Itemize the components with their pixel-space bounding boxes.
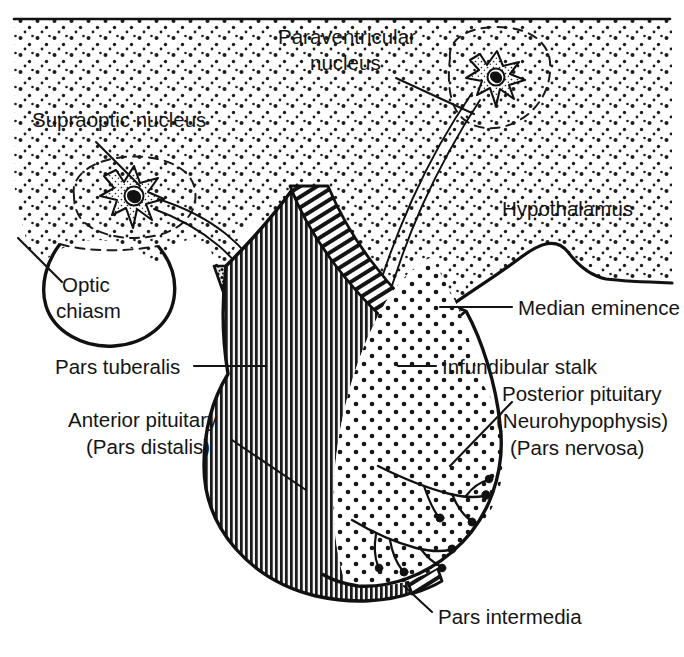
label-anterior-pituitary-line2: (Pars distalis) — [86, 435, 210, 458]
label-median-eminence: Median eminence — [518, 296, 680, 319]
label-posterior-pituitary-line3: (Pars nervosa) — [510, 436, 644, 459]
axon-terminal-bulb-8 — [448, 545, 456, 553]
label-hypothalamus: Hypothalamus — [502, 197, 633, 220]
axon-terminal-bulb-4 — [468, 518, 476, 526]
label-pars-tuberalis: Pars tuberalis — [55, 355, 180, 378]
axon-terminal-bulb-1 — [482, 491, 490, 499]
axon-terminal-bulb-5 — [400, 568, 408, 576]
label-anterior-pituitary-line1: Anterior pituitary — [68, 408, 218, 431]
diagram-canvas: Paraventricular nucleus Supraoptic nucle… — [0, 0, 684, 657]
label-infundibular-stalk: Infundibular stalk — [442, 355, 598, 378]
label-paraventricular-nucleus-line2: nucleus — [310, 51, 381, 74]
axon-terminal-bulb-7 — [438, 564, 446, 572]
label-paraventricular-nucleus-line1: Paraventricular — [278, 25, 416, 48]
label-optic-chiasm-line1: Optic — [62, 273, 110, 296]
axon-terminal-bulb-6 — [375, 564, 383, 572]
label-posterior-pituitary-line2: (Neurohypophysis) — [496, 409, 668, 432]
label-posterior-pituitary-line1: Posterior pituitary — [502, 382, 662, 405]
label-supraoptic-nucleus: Supraoptic nucleus — [32, 108, 206, 131]
label-pars-intermedia: Pars intermedia — [438, 605, 582, 628]
axon-terminal-bulb-2 — [485, 475, 493, 483]
axon-terminal-bulb-3 — [436, 514, 444, 522]
label-optic-chiasm-line2: chiasm — [56, 299, 121, 322]
anatomical-diagram-figure: Paraventricular nucleus Supraoptic nucle… — [0, 0, 684, 657]
